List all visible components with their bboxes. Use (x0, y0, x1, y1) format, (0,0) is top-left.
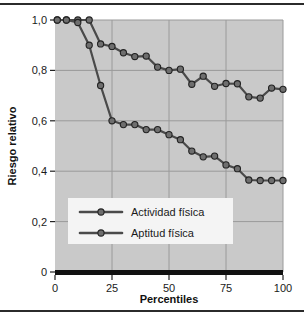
chart-figure: 00,20,40,60,81,0 0255075100 Actividad fí… (0, 0, 304, 315)
data-point (280, 86, 286, 92)
data-point (212, 83, 218, 89)
data-point (63, 17, 69, 23)
y-tick-label: 1,0 (32, 14, 47, 26)
data-point (223, 80, 229, 86)
bottom-border-rule (0, 310, 304, 312)
data-point (166, 132, 172, 138)
data-point (269, 177, 275, 183)
legend-marker-1 (98, 230, 104, 236)
data-point (223, 162, 229, 168)
data-point (234, 81, 240, 87)
y-tick-label: 0,8 (32, 64, 47, 76)
data-point (109, 118, 115, 124)
x-axis-ticks: 0255075100 (52, 275, 292, 294)
data-point (246, 177, 252, 183)
x-tick-label: 75 (220, 282, 232, 294)
data-point (177, 66, 183, 72)
x-axis-bar (55, 270, 283, 275)
data-point (120, 121, 126, 127)
x-tick-label: 100 (274, 282, 292, 294)
data-point (177, 137, 183, 143)
data-point (75, 19, 81, 25)
data-point (86, 42, 92, 48)
y-tick-label: 0,2 (32, 216, 47, 228)
data-point (212, 153, 218, 159)
top-border-rule (0, 3, 304, 5)
data-point (143, 127, 149, 133)
data-point (98, 41, 104, 47)
data-point (98, 82, 104, 88)
legend-label-1: Aptitud física (131, 227, 195, 239)
y-axis-ticks: 00,20,40,60,81,0 (32, 14, 55, 278)
x-tick-label: 0 (52, 282, 58, 294)
data-point (189, 81, 195, 87)
legend-label-0: Actividad física (131, 206, 205, 218)
data-point (109, 43, 115, 49)
data-point (246, 94, 252, 100)
data-point (155, 64, 161, 70)
data-point (120, 50, 126, 56)
data-point (257, 95, 263, 101)
x-tick-label: 25 (106, 282, 118, 294)
data-point (269, 85, 275, 91)
data-point (189, 148, 195, 154)
chart-legend: Actividad físicaAptitud física (68, 198, 233, 244)
legend-marker-0 (98, 209, 104, 215)
line-chart: 00,20,40,60,81,0 0255075100 Actividad fí… (0, 0, 304, 315)
data-point (200, 154, 206, 160)
data-point (132, 53, 138, 59)
y-tick-label: 0,6 (32, 115, 47, 127)
data-point (234, 166, 240, 172)
x-axis-title: Percentiles (140, 293, 199, 305)
y-axis-title: Riesgo relativo (6, 106, 18, 185)
y-tick-label: 0,4 (32, 165, 47, 177)
data-point (200, 73, 206, 79)
data-point (257, 177, 263, 183)
data-point (132, 121, 138, 127)
data-point (166, 67, 172, 73)
data-point (143, 53, 149, 59)
y-tick-label: 0 (41, 266, 47, 278)
data-point (155, 127, 161, 133)
data-point (280, 177, 286, 183)
data-point (54, 17, 60, 23)
data-point (86, 17, 92, 23)
